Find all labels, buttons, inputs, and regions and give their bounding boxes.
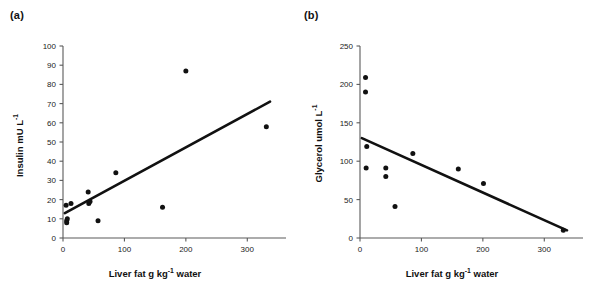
y-axis-tick-label: 100 bbox=[29, 42, 56, 51]
y-axis-tick-label: 0 bbox=[29, 234, 56, 243]
panel-b-y-axis-label-text: Glycerol umol L bbox=[313, 111, 324, 183]
data-point bbox=[363, 90, 368, 95]
data-point bbox=[481, 181, 486, 186]
panel-a-x-axis-label: Liver fat g kg-1 water bbox=[40, 268, 270, 279]
panel-a-y-axis-label: Insulin mU L-1 bbox=[14, 98, 25, 194]
panel-a-plot-svg bbox=[63, 46, 278, 238]
y-axis-tick-label: 30 bbox=[29, 176, 56, 185]
panel-b-x-axis-label: Liver fat g kg-1 water bbox=[337, 268, 567, 279]
trend-line bbox=[362, 138, 567, 230]
data-point bbox=[456, 166, 461, 171]
panel-a-y-axis-label-sup: -1 bbox=[12, 114, 19, 120]
panel-b-plot-area: 0501001502002500100200300 bbox=[360, 46, 575, 238]
data-point bbox=[68, 201, 73, 206]
data-point bbox=[561, 228, 566, 233]
data-point bbox=[264, 124, 269, 129]
panel-b-x-axis-label-pre: Liver fat g kg bbox=[406, 268, 465, 279]
panel-b: (b) Glycerol umol L-1 Liver fat g kg-1 w… bbox=[295, 0, 591, 293]
data-point bbox=[393, 204, 398, 209]
trend-line bbox=[65, 102, 270, 213]
x-axis-tick-label: 200 bbox=[463, 245, 503, 254]
y-axis-tick-label: 90 bbox=[29, 61, 56, 70]
data-point bbox=[65, 216, 70, 221]
data-point bbox=[96, 218, 101, 223]
y-axis-tick-label: 250 bbox=[326, 42, 353, 51]
panel-a-plot-area: 01020304050607080901000100200300 bbox=[63, 46, 278, 238]
y-axis-tick-label: 70 bbox=[29, 99, 56, 108]
panel-a: (a) Insulin mU L-1 Liver fat g kg-1 wate… bbox=[0, 0, 295, 293]
x-axis-tick-label: 0 bbox=[43, 245, 83, 254]
y-axis-tick-label: 200 bbox=[326, 80, 353, 89]
data-point bbox=[364, 144, 369, 149]
panel-b-plot-svg bbox=[360, 46, 575, 238]
y-axis-tick-label: 50 bbox=[29, 138, 56, 147]
panel-a-y-axis-label-text: Insulin mU L bbox=[14, 120, 25, 177]
data-point bbox=[160, 205, 165, 210]
x-axis-tick-label: 300 bbox=[227, 245, 267, 254]
panel-a-label: (a) bbox=[10, 9, 24, 21]
x-axis-tick-label: 100 bbox=[104, 245, 144, 254]
panel-a-x-axis-label-post: water bbox=[174, 268, 201, 279]
panel-a-x-axis-label-pre: Liver fat g kg bbox=[109, 268, 168, 279]
data-point bbox=[363, 75, 368, 80]
data-point bbox=[410, 151, 415, 156]
y-axis-tick-label: 50 bbox=[326, 195, 353, 204]
figure-container: (a) Insulin mU L-1 Liver fat g kg-1 wate… bbox=[0, 0, 591, 293]
x-axis-tick-label: 100 bbox=[401, 245, 441, 254]
y-axis-tick-label: 0 bbox=[326, 234, 353, 243]
panel-b-label: (b) bbox=[304, 9, 319, 21]
y-axis-tick-label: 60 bbox=[29, 118, 56, 127]
panel-b-y-axis-label-sup: -1 bbox=[311, 105, 318, 111]
data-point bbox=[113, 170, 118, 175]
data-point bbox=[383, 166, 388, 171]
x-axis-tick-label: 200 bbox=[166, 245, 206, 254]
panel-b-y-axis-label: Glycerol umol L-1 bbox=[313, 93, 324, 195]
data-point bbox=[86, 189, 91, 194]
y-axis-tick-label: 10 bbox=[29, 214, 56, 223]
y-axis-tick-label: 20 bbox=[29, 195, 56, 204]
y-axis-tick-label: 80 bbox=[29, 80, 56, 89]
y-axis-tick-label: 100 bbox=[326, 157, 353, 166]
x-axis-tick-label: 300 bbox=[524, 245, 564, 254]
data-point bbox=[383, 174, 388, 179]
data-point bbox=[88, 199, 93, 204]
data-point bbox=[183, 68, 188, 73]
x-axis-tick-label: 0 bbox=[340, 245, 380, 254]
data-point bbox=[364, 166, 369, 171]
panel-b-x-axis-label-post: water bbox=[471, 268, 498, 279]
y-axis-tick-label: 40 bbox=[29, 157, 56, 166]
y-axis-tick-label: 150 bbox=[326, 118, 353, 127]
data-point bbox=[64, 203, 69, 208]
